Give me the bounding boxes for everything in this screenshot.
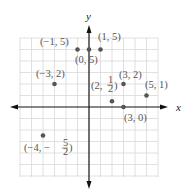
label-3-2: (3, 2) [119, 69, 142, 81]
svg-text:): ) [114, 80, 118, 92]
y-axis-label: y [85, 10, 91, 22]
svg-text:2: 2 [108, 83, 113, 94]
label-5-1: (5, 1) [145, 79, 168, 91]
x-axis-arrow-right [160, 105, 168, 110]
label-3-0: (3, 0) [124, 112, 147, 124]
x-axis-arrow-left [10, 105, 18, 110]
y-axis-arrow-down [87, 181, 92, 189]
label-0-5: (0, 5) [75, 54, 98, 66]
label-neg3-2: (−3, 2) [36, 68, 65, 80]
svg-text:2: 2 [63, 146, 68, 157]
label-1-5: (1, 5) [98, 31, 121, 43]
svg-text:): ) [69, 142, 73, 154]
coordinate-plane: x y (−1, 5) (0, 5) (1, 5) (−3, 2) (3, 2)… [0, 0, 187, 192]
svg-text:(2,: (2, [91, 80, 102, 92]
axes [14, 29, 164, 185]
svg-text:(−4, −: (−4, − [24, 142, 50, 154]
x-axis-label: x [175, 101, 181, 113]
label-neg1-5: (−1, 5) [40, 36, 69, 48]
y-axis-arrow-up [87, 25, 92, 33]
